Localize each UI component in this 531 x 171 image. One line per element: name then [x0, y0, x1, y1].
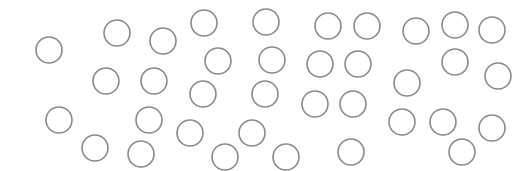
circle-outline [212, 144, 238, 170]
circle-layer [0, 0, 531, 171]
circle-outline [442, 12, 468, 38]
circle-outline [190, 81, 216, 107]
circle-outline [252, 81, 278, 107]
circle-outline [403, 18, 429, 44]
circle-outline [307, 51, 333, 77]
circle-outline [104, 20, 130, 46]
circle-outline [430, 109, 456, 135]
circle-outline [136, 107, 162, 133]
circle-outline [394, 70, 420, 96]
circle-outline [315, 13, 341, 39]
circle-outline [340, 91, 366, 117]
circle-outline [345, 51, 371, 77]
circle-outline [485, 63, 511, 89]
circle-outline [354, 13, 380, 39]
circle-outline [302, 91, 328, 117]
circle-outline [273, 144, 299, 170]
circle-outline [191, 10, 217, 36]
circle-outline [479, 17, 505, 43]
circle-outline [82, 135, 108, 161]
circle-outline [150, 28, 176, 54]
circle-outline [259, 47, 285, 73]
circle-field [0, 0, 531, 171]
circle-outline [479, 115, 505, 141]
circle-outline [128, 141, 154, 167]
circle-outline [338, 139, 364, 165]
circle-outline [253, 9, 279, 35]
circle-outline [205, 48, 231, 74]
circle-outline [141, 68, 167, 94]
circle-outline [442, 49, 468, 75]
circle-outline [177, 120, 203, 146]
circle-outline [93, 68, 119, 94]
circle-outline [389, 109, 415, 135]
circle-outline [36, 37, 62, 63]
circle-outline [239, 120, 265, 146]
circle-outline [449, 139, 475, 165]
circle-outline [46, 107, 72, 133]
